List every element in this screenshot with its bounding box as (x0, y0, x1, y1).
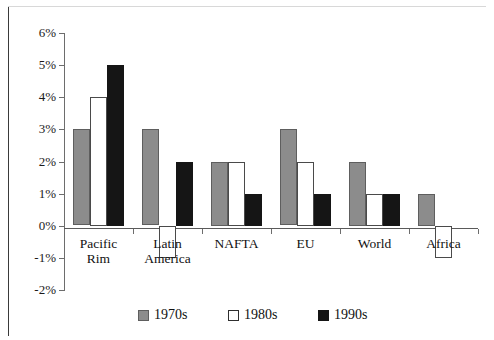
y-axis-tick-label-wrap: 6% (8, 33, 56, 34)
grouped-bar-chart: 6%5%4%3%2%1%0%-1%-2%Pacific RimLatin Ame… (0, 0, 494, 340)
legend-item-1980s[interactable]: 1980s (228, 305, 277, 325)
bar-1980s-eu (297, 162, 314, 226)
bar-1970s-latin-america (142, 129, 159, 225)
plot-area: 6%5%4%3%2%1%0%-1%-2%Pacific RimLatin Ame… (0, 0, 494, 300)
legend-item-label: 1990s (334, 308, 367, 322)
legend-item-label: 1970s (154, 308, 187, 322)
y-axis-tick-label: 0% (10, 219, 56, 232)
x-axis-category-label: World (340, 236, 409, 251)
y-axis-tick (59, 33, 65, 34)
y-axis-tick-label: 2% (10, 155, 56, 168)
chart-legend: 1970s1980s1990s (0, 305, 494, 327)
y-axis-tick (59, 290, 65, 291)
x-axis-category-label: EU (271, 236, 340, 251)
y-axis-tick-label-wrap: -1% (8, 258, 56, 259)
bar-1990s-nafta (245, 194, 262, 226)
bar-1990s-pacific-rim (107, 65, 124, 226)
y-axis-tick (59, 97, 65, 98)
y-axis-tick (59, 65, 65, 66)
y-axis-tick-label: 1% (10, 187, 56, 200)
y-axis-tick-label: -1% (10, 251, 56, 264)
y-axis-tick-label-wrap: 2% (8, 162, 56, 163)
gray-swatch (138, 310, 149, 321)
bar-1990s-eu (314, 194, 331, 226)
bar-1970s-nafta (211, 162, 228, 226)
x-axis-tick (202, 229, 203, 234)
bar-1980s-pacific-rim (90, 97, 107, 226)
bar-1970s-eu (280, 129, 297, 225)
x-axis-category-label: Pacific Rim (64, 236, 133, 266)
y-axis-tick-label: -2% (10, 283, 56, 296)
y-axis-tick (59, 162, 65, 163)
y-axis-tick-label-wrap: 0% (8, 226, 56, 227)
x-axis-category-label: NAFTA (202, 236, 271, 251)
x-axis-tick (64, 229, 65, 234)
x-axis-category-label: Africa (409, 236, 478, 251)
bar-1990s-latin-america (176, 162, 193, 226)
y-axis-tick-label: 5% (10, 58, 56, 71)
bar-1970s-africa (418, 194, 435, 226)
x-axis-category-label: Latin America (133, 236, 202, 266)
y-axis-tick-label-wrap: 5% (8, 65, 56, 66)
x-axis-tick (271, 229, 272, 234)
x-axis-tick (340, 229, 341, 234)
black-swatch (318, 310, 329, 321)
bar-1980s-world (366, 194, 383, 226)
y-axis-tick-label-wrap: 4% (8, 97, 56, 98)
x-axis-tick (478, 229, 479, 234)
y-axis-tick-label-wrap: 1% (8, 194, 56, 195)
legend-item-1990s[interactable]: 1990s (318, 305, 367, 325)
bar-1990s-world (383, 194, 400, 226)
legend-item-label: 1980s (244, 308, 277, 322)
y-axis-tick (59, 194, 65, 195)
bar-1980s-nafta (228, 162, 245, 226)
y-axis-tick (59, 226, 65, 227)
y-axis-tick-label: 4% (10, 90, 56, 103)
y-axis-tick-label: 6% (10, 26, 56, 39)
y-axis-tick (59, 129, 65, 130)
legend-item-1970s[interactable]: 1970s (138, 305, 187, 325)
y-axis-tick-label-wrap: -2% (8, 290, 56, 291)
x-axis-tick (409, 229, 410, 234)
white-swatch (228, 310, 239, 321)
x-axis-tick (133, 229, 134, 234)
y-axis-tick-label-wrap: 3% (8, 129, 56, 130)
y-axis-tick-label: 3% (10, 122, 56, 135)
bar-1970s-world (349, 162, 366, 226)
bar-1970s-pacific-rim (73, 129, 90, 225)
